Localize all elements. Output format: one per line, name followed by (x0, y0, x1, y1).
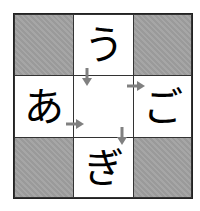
corner-cell-top-left (14, 14, 74, 76)
char-bottom: ぎ (84, 148, 124, 188)
arrow-right-icon (127, 81, 145, 91)
char-left: あ (24, 87, 64, 127)
char-top: う (84, 25, 124, 65)
arrow-down-icon (117, 127, 127, 145)
corner-cell-bottom-right (133, 137, 192, 198)
corner-cell-top-right (133, 14, 192, 76)
cell-left: あ (14, 75, 74, 138)
corner-cell-bottom-left (14, 137, 74, 198)
cell-top: う (73, 14, 134, 76)
cell-bottom: ぎ (73, 137, 134, 198)
char-right: ご (143, 87, 183, 127)
arrow-right-icon (66, 119, 84, 129)
arrow-down-icon (82, 68, 92, 86)
kanji-puzzle-grid: う あ ご ぎ (13, 13, 193, 199)
